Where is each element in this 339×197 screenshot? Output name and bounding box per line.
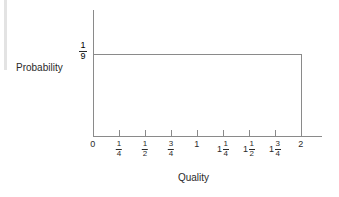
fraction-numerator: 1 <box>116 140 122 149</box>
x-axis-tick <box>119 130 120 136</box>
y-tick-label-one-ninth: 1 9 <box>76 41 90 61</box>
fraction-denominator: 4 <box>116 149 122 159</box>
fraction-denominator: 4 <box>275 149 281 159</box>
fraction-one-ninth: 1 9 <box>79 41 86 61</box>
fraction-denominator: 4 <box>223 149 229 159</box>
x-axis-tick <box>145 130 146 136</box>
tick-whole-number: 2 <box>298 140 304 149</box>
x-axis-tick <box>223 130 224 136</box>
x-axis-title: Quality <box>0 172 339 183</box>
x-axis-tick <box>301 130 302 136</box>
fraction-numerator: 1 <box>223 140 229 149</box>
fraction-denominator: 9 <box>79 51 86 62</box>
tick-fraction: 14 <box>116 140 122 158</box>
fraction-numerator: 1 <box>142 140 148 149</box>
x-axis-tick <box>197 130 198 136</box>
tick-whole-number: 0 <box>90 140 96 149</box>
left-edge-artifact <box>4 0 7 70</box>
tick-whole-number: 1 <box>194 140 200 149</box>
y-axis-title: Probability <box>16 62 63 73</box>
fraction-numerator: 1 <box>79 41 86 51</box>
tick-fraction: 12 <box>142 140 148 158</box>
x-tick-label: 112 <box>243 140 255 158</box>
x-axis-tick <box>171 130 172 136</box>
x-axis-tick <box>249 130 250 136</box>
fraction-denominator: 2 <box>249 149 255 159</box>
tick-fraction: 12 <box>249 140 255 158</box>
distribution-top-line <box>93 54 301 55</box>
x-axis-title-text: Quality <box>178 172 209 183</box>
x-tick-label: 114 <box>217 140 229 158</box>
x-axis-tick <box>93 130 94 136</box>
fraction-numerator: 3 <box>168 140 174 149</box>
x-tick-label: 14 <box>116 140 122 158</box>
distribution-right-edge <box>301 54 302 137</box>
x-tick-label: 1 <box>194 140 200 149</box>
tick-fraction: 34 <box>275 140 281 158</box>
fraction-numerator: 1 <box>249 140 255 149</box>
x-tick-label: 0 <box>90 140 96 149</box>
x-axis-tick <box>275 130 276 136</box>
x-tick-label: 12 <box>142 140 148 158</box>
fraction-numerator: 3 <box>275 140 281 149</box>
chart-figure: 1 9 014123411141121342 Probability Quali… <box>0 0 339 197</box>
x-tick-label: 2 <box>298 140 304 149</box>
x-tick-label: 134 <box>269 140 281 158</box>
fraction-denominator: 4 <box>168 149 174 159</box>
tick-fraction: 34 <box>168 140 174 158</box>
x-tick-label: 34 <box>168 140 174 158</box>
tick-fraction: 14 <box>223 140 229 158</box>
fraction-denominator: 2 <box>142 149 148 159</box>
y-axis-line <box>93 10 94 136</box>
x-axis-line <box>93 136 322 137</box>
